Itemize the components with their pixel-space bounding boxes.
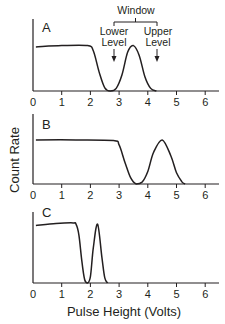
- panel-c-label: C: [42, 205, 51, 220]
- x-tick-label: 4: [145, 96, 151, 108]
- x-tick-label: 4: [145, 189, 151, 201]
- panel-b-ticks: 0123456: [30, 184, 208, 201]
- panel-a-label: A: [42, 20, 51, 35]
- x-tick-label: 6: [202, 189, 208, 201]
- x-axis-label: Pulse Height (Volts): [67, 304, 181, 319]
- window-label: Window: [117, 4, 155, 16]
- x-tick-label: 6: [202, 96, 208, 108]
- pulse-height-figure: Count Rate 0123456 A Window Lower Level …: [0, 0, 225, 324]
- x-tick-label: 2: [87, 96, 93, 108]
- x-tick-label: 2: [87, 288, 93, 300]
- x-tick-label: 5: [173, 96, 179, 108]
- panel-a: 0123456 A Window Lower Level Upper Level: [30, 4, 219, 108]
- x-tick-label: 3: [116, 288, 122, 300]
- panel-a-ticks: 0123456: [30, 91, 208, 108]
- x-tick-label: 3: [116, 96, 122, 108]
- panel-b: 0123456 B: [30, 114, 219, 201]
- upper-level-arrow-icon: [155, 49, 160, 62]
- x-tick-label: 3: [116, 189, 122, 201]
- panel-c-curve: [36, 223, 108, 283]
- lower-level-label-line2: Level: [101, 36, 126, 48]
- y-axis-label: Count Rate: [7, 127, 22, 193]
- panel-c-ticks: 0123456: [30, 283, 208, 300]
- panel-c: 0123456 C: [30, 205, 219, 300]
- x-tick-label: 1: [59, 96, 65, 108]
- x-tick-label: 1: [59, 189, 65, 201]
- panel-b-curve: [36, 140, 185, 184]
- x-tick-label: 6: [202, 288, 208, 300]
- x-tick-label: 2: [87, 189, 93, 201]
- x-tick-label: 0: [30, 288, 36, 300]
- x-tick-label: 1: [59, 288, 65, 300]
- upper-level-label-line2: Level: [145, 36, 170, 48]
- panel-a-curve: [36, 45, 156, 91]
- panel-b-label: B: [42, 117, 51, 132]
- x-tick-label: 0: [30, 189, 36, 201]
- x-tick-label: 0: [30, 96, 36, 108]
- x-tick-label: 4: [145, 288, 151, 300]
- lower-level-arrow-icon: [112, 49, 117, 62]
- x-tick-label: 5: [173, 288, 179, 300]
- x-tick-label: 5: [173, 189, 179, 201]
